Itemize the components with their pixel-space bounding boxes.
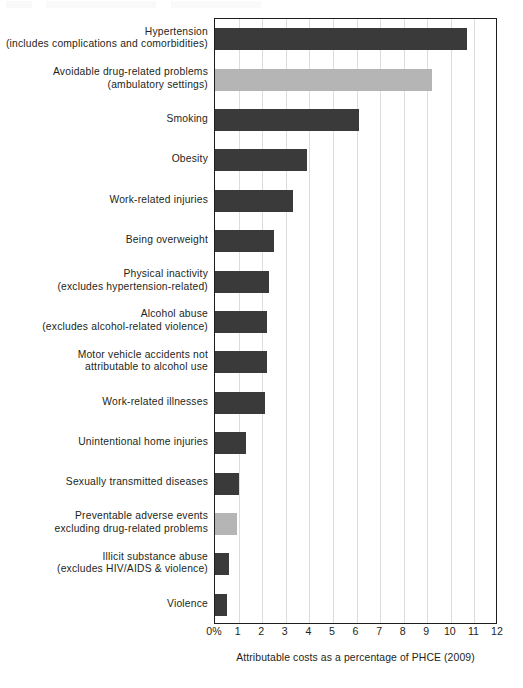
scan-artifact [6,1,306,8]
x-tick-label: 10 [444,624,456,638]
bar [215,513,237,535]
category-label: Work-related illnesses [0,396,208,409]
x-tick-label: 12 [491,624,503,638]
x-tick-label: 0% [206,624,221,638]
category-label: Being overweight [0,234,208,247]
category-label: Work-related injuries [0,194,208,207]
bar-series [215,19,496,623]
category-label: Smoking [0,113,208,126]
x-tick-label: 5 [329,624,335,638]
bar [215,351,267,373]
bar [215,432,246,454]
category-label: Unintentional home injuries [0,436,208,449]
bar [215,271,269,293]
category-label: Hypertension (includes complications and… [0,26,208,51]
category-label: Preventable adverse events excluding dru… [0,510,208,535]
category-label: Obesity [0,153,208,166]
x-tick-label: 7 [376,624,382,638]
x-tick-label: 8 [400,624,406,638]
bar [215,149,307,171]
bar [215,392,265,414]
bar [215,69,432,91]
x-axis-title: Attributable costs as a percentage of PH… [214,652,497,663]
category-label: Alcohol abuse (excludes alcohol-related … [0,308,208,333]
x-tick-label: 2 [258,624,264,638]
plot-area [214,18,497,624]
category-label: Sexually transmitted diseases [0,476,208,489]
chart-figure: Hypertension (includes complications and… [0,0,523,688]
bar [215,553,229,575]
x-tick-label: 11 [468,624,479,638]
bar [215,28,467,50]
bar [215,473,239,495]
x-tick-label: 4 [305,624,311,638]
x-tick-label: 6 [353,624,359,638]
bar [215,109,359,131]
bar [215,594,227,616]
category-axis-labels: Hypertension (includes complications and… [0,18,208,624]
category-label: Avoidable drug-related problems (ambulat… [0,66,208,91]
bar-chart: Hypertension (includes complications and… [0,18,523,624]
x-tick-label: 3 [282,624,288,638]
category-label: Motor vehicle accidents not attributable… [0,349,208,374]
x-axis-ticks: 0%123456789101112 [214,624,497,642]
x-tick-label: 1 [235,624,241,638]
category-label: Violence [0,598,208,611]
bar [215,190,293,212]
category-label: Illicit substance abuse (excludes HIV/AI… [0,551,208,576]
bar [215,230,274,252]
x-tick-label: 9 [423,624,429,638]
category-label: Physical inactivity (excludes hypertensi… [0,268,208,293]
bar [215,311,267,333]
